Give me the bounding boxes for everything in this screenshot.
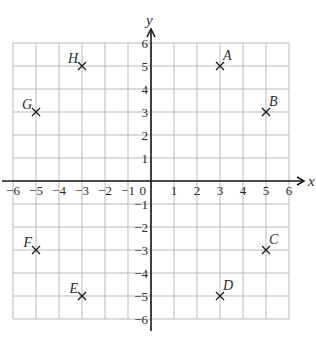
coordinate-diagram: xy −6−5−4−3−2−11234560654321−1−2−3−4−5−6…: [0, 0, 316, 341]
x-tick-label: −5: [29, 183, 43, 198]
y-tick-label: 2: [142, 128, 149, 143]
x-tick-label: 1: [171, 183, 178, 198]
origin-label: 0: [140, 183, 147, 198]
y-tick-label: −3: [134, 243, 148, 258]
x-tick-label: 3: [217, 183, 224, 198]
y-tick-label: −5: [134, 289, 148, 304]
y-tick-label: 4: [142, 82, 149, 97]
point-e: E: [68, 281, 86, 300]
point-b: B: [262, 94, 278, 116]
point-label: H: [67, 51, 79, 66]
point-label: C: [269, 232, 279, 247]
y-tick-label: 1: [142, 151, 149, 166]
point-a: A: [216, 48, 232, 70]
point-label: A: [222, 48, 232, 63]
point-label: F: [22, 235, 32, 250]
y-tick-label: −6: [134, 312, 148, 327]
y-tick-label: 3: [142, 105, 149, 120]
point-label: B: [269, 94, 278, 109]
x-tick-label: −4: [52, 183, 66, 198]
x-tick-label: −3: [75, 183, 89, 198]
point-g: G: [22, 97, 40, 116]
y-axis-label: y: [144, 12, 153, 28]
y-tick-label: 6: [142, 36, 149, 51]
y-tick-label: 5: [142, 59, 149, 74]
y-tick-label: −1: [134, 197, 148, 212]
y-tick-label: −2: [134, 220, 148, 235]
axes: xy: [2, 12, 315, 331]
x-tick-label: −6: [6, 183, 20, 198]
x-tick-label: 5: [263, 183, 270, 198]
x-tick-label: 4: [240, 183, 247, 198]
y-tick-label: −4: [134, 266, 148, 281]
point-label: E: [68, 281, 78, 296]
point-d: D: [216, 278, 233, 300]
x-tick-label: 6: [286, 183, 293, 198]
point-label: G: [22, 97, 32, 112]
point-h: H: [67, 51, 86, 70]
x-tick-label: −1: [121, 183, 135, 198]
x-tick-label: −2: [98, 183, 112, 198]
point-c: C: [262, 232, 279, 254]
point-f: F: [22, 235, 40, 254]
x-axis-label: x: [307, 173, 315, 189]
x-tick-label: 2: [194, 183, 201, 198]
coordinate-grid-svg: xy −6−5−4−3−2−11234560654321−1−2−3−4−5−6…: [0, 0, 316, 341]
point-label: D: [222, 278, 233, 293]
